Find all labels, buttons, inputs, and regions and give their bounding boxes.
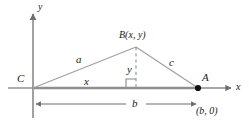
right-angle-marker [126,79,136,87]
vertex-label-b: B(x, y) [119,30,146,40]
side-label-a: a [76,54,82,65]
base-segment-label-x: x [84,76,89,87]
dimension-label-b: b [132,98,138,109]
point-a-coordinates-label: (b, 0) [196,106,218,116]
geometry-figure: y x C A B(x, y) (b, 0) a c x y b [0,0,249,131]
vertex-label-a: A [202,72,209,83]
point-a-dot [195,85,201,91]
vertex-label-c: C [17,73,24,84]
side-label-c: c [169,57,174,68]
x-axis-label: x [236,82,240,92]
altitude-label-y: y [127,64,132,75]
y-axis-label: y [38,2,42,12]
triangle-side-c [136,47,198,88]
